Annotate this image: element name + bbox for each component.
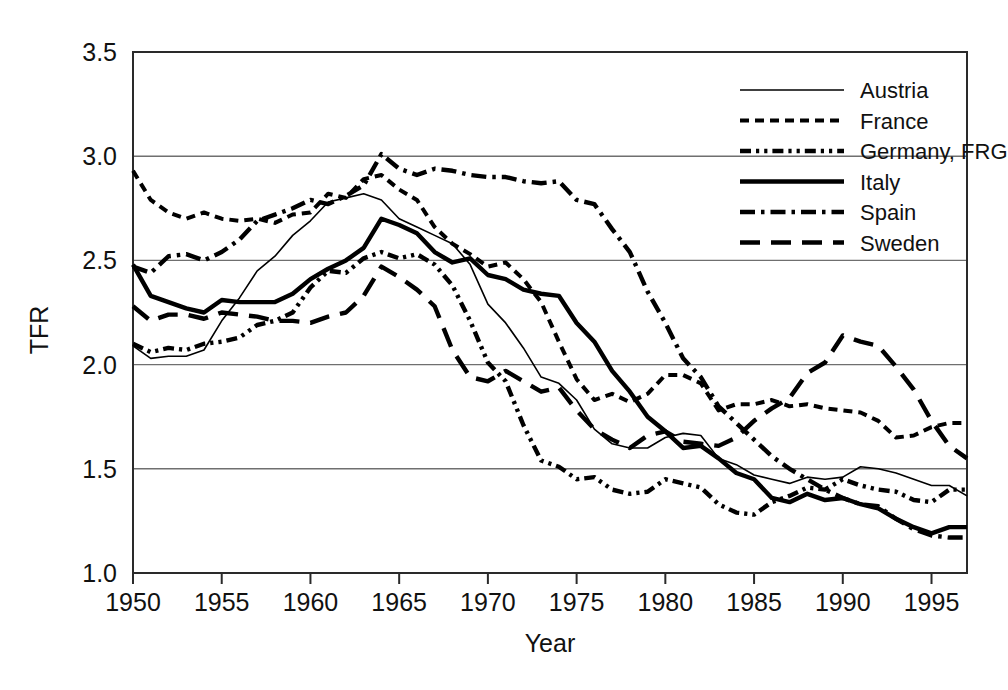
y-tick-label-1.0: 1.0 xyxy=(82,559,117,587)
legend-label-sweden: Sweden xyxy=(860,231,940,256)
x-tick-label-1985: 1985 xyxy=(726,588,782,616)
legend-label-germany-frg: Germany, FRG xyxy=(860,139,1008,164)
y-tick-label-2.5: 2.5 xyxy=(82,246,117,274)
tfr-line-chart: 1950195519601965197019751980198519901995… xyxy=(0,0,1008,690)
y-axis-title: TFR xyxy=(25,306,53,355)
legend-label-spain: Spain xyxy=(860,200,916,225)
x-tick-label-1975: 1975 xyxy=(549,588,605,616)
x-tick-label-1990: 1990 xyxy=(815,588,871,616)
y-tick-label-3.5: 3.5 xyxy=(82,38,117,66)
y-tick-label-2.0: 2.0 xyxy=(82,351,117,379)
x-tick-label-1950: 1950 xyxy=(105,588,161,616)
y-tick-label-3.0: 3.0 xyxy=(82,142,117,170)
x-tick-label-1970: 1970 xyxy=(460,588,516,616)
x-tick-label-1995: 1995 xyxy=(904,588,960,616)
legend-label-italy: Italy xyxy=(860,170,900,195)
x-axis-title: Year xyxy=(525,629,576,657)
x-tick-label-1965: 1965 xyxy=(371,588,427,616)
x-tick-label-1960: 1960 xyxy=(283,588,339,616)
x-tick-label-1955: 1955 xyxy=(194,588,250,616)
chart-background xyxy=(0,0,1008,690)
x-tick-label-1980: 1980 xyxy=(638,588,694,616)
y-tick-label-1.5: 1.5 xyxy=(82,455,117,483)
legend-label-france: France xyxy=(860,109,928,134)
legend-label-austria: Austria xyxy=(860,78,929,103)
chart-figure: 1950195519601965197019751980198519901995… xyxy=(0,0,1008,690)
